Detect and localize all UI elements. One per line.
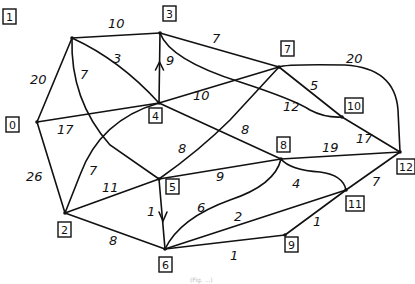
edge-weight-label: 7 <box>372 174 381 189</box>
node-label: 0 <box>9 119 16 132</box>
node-10: 10 <box>340 98 363 119</box>
edge-weight-label: 6 <box>197 200 205 215</box>
node-label: 11 <box>348 198 362 211</box>
edge-weight-label: 7 <box>89 163 98 178</box>
edge-weight-label: 1 <box>147 204 155 219</box>
figure-caption: (Fig. ...) <box>190 276 213 284</box>
edge-weight-label: 10 <box>108 16 125 31</box>
edge-weight-label: 8 <box>178 141 186 156</box>
edge-weight-label: 1 <box>230 248 238 263</box>
node-label: 9 <box>288 239 295 252</box>
node-label: 8 <box>280 139 287 152</box>
node-dot <box>398 150 402 154</box>
edge-weight-label: 9 <box>166 53 174 68</box>
edge-weight-label: 5 <box>310 78 318 93</box>
node-dot <box>163 247 167 251</box>
edge-4-0 <box>37 103 159 122</box>
edge-weight-label: 8 <box>109 233 117 248</box>
node-0: 0 <box>6 117 39 132</box>
edge-weight-label: 3 <box>113 51 121 66</box>
edge-weight-label: 17 <box>356 131 373 146</box>
edge-weight-label: 26 <box>26 169 43 184</box>
node-label: 1 <box>6 11 13 24</box>
node-label: 7 <box>284 43 291 56</box>
edge-weight-label: 19 <box>322 140 339 155</box>
edge-weight-label: 20 <box>346 51 363 66</box>
node-1: 1 <box>3 9 74 40</box>
edge-weight-label: 10 <box>193 88 210 103</box>
node-dot <box>157 101 161 105</box>
node-12: 12 <box>397 150 415 174</box>
weights-layer: 1020379712171087261181895201719462117 <box>26 16 381 263</box>
edge-weight-label: 7 <box>80 67 89 82</box>
node-11: 11 <box>344 188 364 211</box>
edge-weight-label: 12 <box>283 99 300 114</box>
edge-weight-label: 4 <box>292 176 300 191</box>
edge-weight-label: 2 <box>234 209 242 224</box>
node-dot <box>283 233 287 237</box>
node-label: 3 <box>166 8 173 21</box>
node-dot <box>277 65 281 69</box>
node-label: 2 <box>61 224 68 237</box>
graph-diagram: 1020379712171087261181895201719462117 01… <box>0 0 415 284</box>
node-label: 12 <box>399 161 413 174</box>
edge-weight-label: 1 <box>313 214 321 229</box>
edge-weight-label: 20 <box>30 72 47 87</box>
node-dot <box>279 157 283 161</box>
edge-weight-label: 7 <box>212 31 221 46</box>
edge-weight-label: 11 <box>102 180 119 195</box>
edge-8-12 <box>281 152 400 159</box>
node-3: 3 <box>158 6 176 35</box>
edge-4-7 <box>159 67 279 103</box>
node-dot <box>63 211 67 215</box>
node-dot <box>340 115 344 119</box>
node-9: 9 <box>283 233 298 252</box>
node-dot <box>344 188 348 192</box>
edge-weight-label: 8 <box>241 122 249 137</box>
edge-weight-label: 17 <box>57 122 74 137</box>
node-dot <box>158 31 162 35</box>
edge-8-11 <box>281 159 346 190</box>
node-label: 10 <box>347 100 361 113</box>
node-dot <box>70 36 74 40</box>
edge-1-3 <box>72 33 160 38</box>
node-6: 6 <box>159 247 172 272</box>
node-dot <box>35 120 39 124</box>
node-label: 4 <box>152 110 159 123</box>
node-dot <box>157 177 161 181</box>
edge-6-9 <box>165 235 285 249</box>
node-label: 6 <box>162 259 169 272</box>
edge-weight-label: 9 <box>216 169 224 184</box>
edge-3-4 <box>159 33 160 103</box>
node-label: 5 <box>169 181 176 194</box>
